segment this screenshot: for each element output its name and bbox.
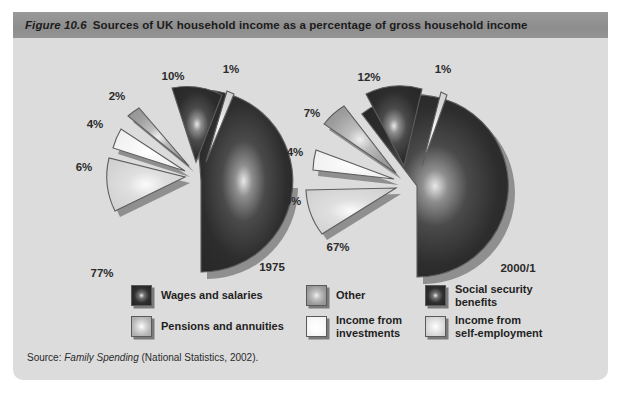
legend-swatch-other xyxy=(306,285,327,306)
legend-item-income-from-self-employment[interactable]: Income from self-employment xyxy=(425,311,542,342)
pie-1975-label-income-from-investments: 4% xyxy=(87,118,104,130)
legend-swatch-wages-and-salaries xyxy=(131,285,152,306)
figure-number: Figure 10.6 xyxy=(25,19,87,31)
source-prefix: Source: xyxy=(27,352,61,363)
pie-1975-label-income-from-self-employment: 6% xyxy=(76,161,93,173)
pie-charts-area: 77% 6% 4% 2% 10% 1% 1975 xyxy=(13,38,608,284)
source-attribution: (National Statistics, 2002). xyxy=(142,352,259,363)
legend-swatch-income-from-investments xyxy=(306,316,327,337)
pie-1975-label-social-security-benefits: 10% xyxy=(161,70,184,82)
legend-label-social-security-benefits: Social security benefits xyxy=(455,283,533,308)
legend-column-1: Wages and salaries Pensions and annuitie… xyxy=(131,280,284,342)
legend-column-3: Social security benefits Income from sel… xyxy=(425,280,542,342)
pie-2000-1-slice-income-from-self-employment xyxy=(306,188,396,234)
legend-item-pensions-and-annuities[interactable]: Pensions and annuities xyxy=(131,311,284,342)
legend-item-other[interactable]: Other xyxy=(306,280,402,311)
figure-panel: Figure 10.6 Sources of UK household inco… xyxy=(13,12,608,380)
pie-2000-1-label-wages-and-salaries: 67% xyxy=(326,241,349,253)
legend-label-income-from-investments: Income from investments xyxy=(336,314,402,339)
legend-label-pensions-and-annuities: Pensions and annuities xyxy=(161,320,284,333)
figure-title: Sources of UK household income as a perc… xyxy=(93,19,528,31)
pie-charts-svg: 77% 6% 4% 2% 10% 1% 1975 xyxy=(13,38,608,284)
pie-chart-1975: 77% 6% 4% 2% 10% 1% 1975 xyxy=(76,63,298,279)
pie-2000-1-label-income-from-self-employment: 9% xyxy=(285,195,302,207)
figure-title-bar: Figure 10.6 Sources of UK household inco… xyxy=(13,12,608,38)
pie-1975-year-label: 1975 xyxy=(259,261,285,273)
chart-legend: Wages and salaries Pensions and annuitie… xyxy=(13,280,608,342)
source-note: Source: Family Spending (National Statis… xyxy=(27,352,258,363)
pie-2000-1-label-pensions-and-annuities: 7% xyxy=(304,107,321,119)
legend-column-2: Other Income from investments xyxy=(306,280,402,342)
legend-swatch-income-from-self-employment xyxy=(425,316,446,337)
legend-label-other: Other xyxy=(336,289,365,302)
pie-1975-label-pensions-and-annuities: 2% xyxy=(109,90,126,102)
legend-label-wages-and-salaries: Wages and salaries xyxy=(161,289,263,302)
legend-swatch-pensions-and-annuities xyxy=(131,316,152,337)
source-publication: Family Spending xyxy=(64,352,138,363)
pie-2000-1-label-income-from-investments: 4% xyxy=(287,146,304,158)
pie-chart-2000-1: 67% 9% 4% 7% 12% 1% 2000/1 xyxy=(285,63,536,284)
legend-item-wages-and-salaries[interactable]: Wages and salaries xyxy=(131,280,284,311)
pie-2000-1-year-label: 2000/1 xyxy=(500,262,536,274)
legend-item-social-security-benefits[interactable]: Social security benefits xyxy=(425,280,542,311)
pie-1975-label-other: 1% xyxy=(223,63,240,75)
legend-label-income-from-self-employment: Income from self-employment xyxy=(455,314,542,339)
pie-1975-label-wages-and-salaries: 77% xyxy=(90,267,113,279)
legend-item-income-from-investments[interactable]: Income from investments xyxy=(306,311,402,342)
pie-2000-1-label-social-security-benefits: 12% xyxy=(357,71,380,83)
pie-2000-1-label-other: 1% xyxy=(435,63,452,75)
legend-swatch-social-security-benefits xyxy=(425,285,446,306)
